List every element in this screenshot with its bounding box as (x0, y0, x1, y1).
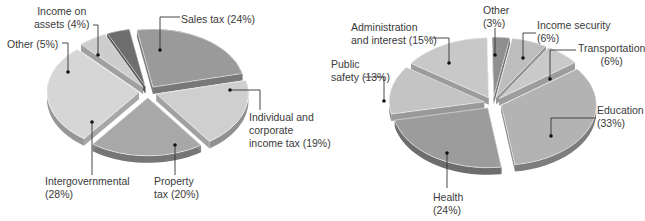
leader-dot (66, 70, 70, 74)
leader-dot (493, 53, 497, 57)
label-health: Health (24%) (433, 191, 463, 217)
label-line: Other (483, 4, 509, 17)
label-line: Transportation (578, 42, 645, 55)
label-line: tax (20%) (154, 188, 199, 201)
label-line: Individual and (249, 111, 331, 124)
label-line: Intergovernmental (45, 175, 130, 188)
label-other-revenue: Other (5%) (7, 38, 58, 51)
label-line: Administration (351, 21, 437, 34)
label-line: corporate (249, 124, 331, 137)
label-sales-tax: Sales tax (24%) (181, 13, 255, 26)
leader-dot (445, 151, 449, 155)
leader-dot (96, 53, 100, 57)
label-line: (24%) (433, 204, 463, 217)
leader-dot (447, 61, 451, 65)
label-line: (33%) (597, 117, 644, 130)
chart-stage: Income on assets (4%) Other (5%) Sales t… (0, 0, 645, 221)
pie-chart-1 (47, 17, 260, 175)
label-line: Income on (34, 5, 89, 18)
label-line: Income security (537, 19, 611, 32)
label-intergovernmental: Intergovernmental (28%) (45, 175, 130, 201)
label-education: Education (33%) (597, 104, 644, 130)
label-line: (3%) (483, 17, 509, 30)
leader-dot (228, 88, 232, 92)
leader-dot (521, 56, 525, 60)
label-other-spending: Other (3%) (483, 4, 509, 30)
leader-dot (548, 77, 552, 81)
leader-dot (90, 120, 94, 124)
leader-dot (173, 143, 177, 147)
label-income-on-assets: Income on assets (4%) (34, 5, 89, 31)
label-administration-interest: Administration and interest (15%) (351, 21, 437, 47)
label-transportation: Transportation (6%) (578, 42, 645, 68)
leader-dot (382, 99, 386, 103)
label-line: income tax (19%) (249, 137, 331, 150)
leader-dot (549, 134, 553, 138)
label-line: assets (4%) (34, 18, 89, 31)
label-line: Property (154, 175, 199, 188)
label-public-safety: Public safety (13%) (331, 58, 390, 84)
label-property-tax: Property tax (20%) (154, 175, 199, 201)
pie-slice (395, 108, 502, 175)
label-line: Health (433, 191, 463, 204)
label-line: (28%) (45, 188, 130, 201)
label-line: Education (597, 104, 644, 117)
label-line: safety (13%) (331, 71, 390, 84)
label-line: and interest (15%) (351, 34, 437, 47)
label-line: (6%) (578, 55, 645, 68)
label-individual-income-tax: Individual and corporate income tax (19%… (249, 111, 331, 150)
leader-dot (158, 48, 162, 52)
label-line: Public (331, 58, 390, 71)
pie-chart-2 (364, 28, 596, 188)
